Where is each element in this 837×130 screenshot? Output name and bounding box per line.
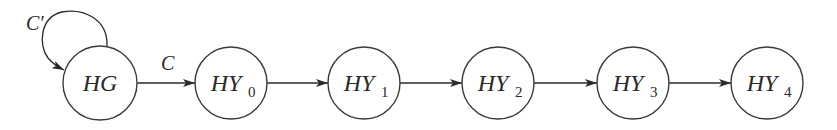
node-hy0: HY 0 bbox=[195, 47, 267, 119]
node-label: HY bbox=[210, 70, 244, 96]
node-hy2: HY 2 bbox=[462, 47, 534, 119]
edge-label-c: C bbox=[161, 52, 175, 74]
self-loop-label: C′ bbox=[26, 12, 44, 34]
node-label: HY bbox=[612, 70, 646, 96]
node-subscript: 3 bbox=[650, 84, 658, 100]
state-diagram: C′ C HG HY 0 HY 1 HY 2 HY 3 HY 4 bbox=[0, 0, 837, 130]
node-label: HY bbox=[477, 70, 511, 96]
node-hg: HG bbox=[63, 46, 137, 120]
node-label: HY bbox=[746, 70, 780, 96]
node-hy1: HY 1 bbox=[328, 47, 400, 119]
node-label: HY bbox=[343, 70, 377, 96]
node-hy4: HY 4 bbox=[731, 47, 803, 119]
node-label: HG bbox=[82, 70, 118, 96]
node-subscript: 0 bbox=[248, 84, 256, 100]
node-subscript: 2 bbox=[515, 84, 523, 100]
node-hy3: HY 3 bbox=[597, 47, 669, 119]
node-subscript: 1 bbox=[381, 84, 389, 100]
node-subscript: 4 bbox=[784, 84, 792, 100]
